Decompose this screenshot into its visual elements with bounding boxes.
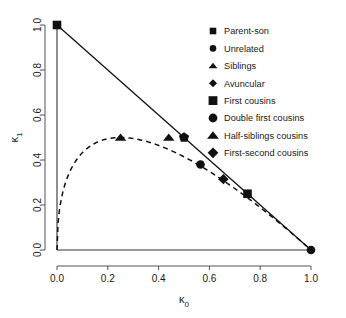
y-axis-ticks: 0.00.20.40.60.81.0 <box>32 18 46 257</box>
legend: Parent-sonUnrelatedSiblingsAvuncular Fir… <box>207 26 309 158</box>
data-point-triangle: Siblings <box>115 134 127 141</box>
y-tick-label: 0.6 <box>32 108 43 122</box>
kappa-scatter-plot: 0.00.20.40.60.81.0 0.00.20.40.60.81.0 Pa… <box>0 0 346 318</box>
x-tick-label: 0.2 <box>101 273 115 284</box>
data-point-triangle: Half-siblings cousins <box>163 134 175 141</box>
legend-label: Siblings <box>224 61 257 71</box>
y-tick-label: 0.4 <box>32 153 43 167</box>
legend-marker-diamond <box>208 147 219 158</box>
x-axis-title: κ0 <box>179 293 190 309</box>
legend-label: Avuncular <box>224 79 265 89</box>
x-tick-label: 0.0 <box>50 273 64 284</box>
y-axis-title: κ1 <box>8 132 24 143</box>
legend-marker-square <box>210 28 217 35</box>
legend-marker-circle <box>210 45 217 52</box>
y-tick-label: 1.0 <box>32 18 43 32</box>
data-point-square: Parent-son <box>53 21 62 30</box>
legend-label: Half-siblings cousins <box>224 131 308 141</box>
legend-label: First cousins <box>224 96 276 106</box>
x-tick-label: 1.0 <box>304 273 318 284</box>
legend-marker-diamond <box>209 79 217 87</box>
legend-marker-square <box>209 96 218 105</box>
y-tick-label: 0.2 <box>32 198 43 212</box>
y-tick-label: 0.8 <box>32 63 43 77</box>
legend-label: Double first cousins <box>224 113 305 123</box>
legend-label: Unrelated <box>224 44 264 54</box>
x-tick-label: 0.6 <box>202 273 216 284</box>
legend-marker-triangle <box>209 63 218 69</box>
legend-marker-triangle <box>207 131 219 138</box>
x-axis-ticks: 0.00.20.40.60.81.0 <box>50 266 318 284</box>
x-tick-label: 0.8 <box>253 273 267 284</box>
legend-marker-circle <box>209 114 218 123</box>
legend-label: Parent-son <box>224 26 269 36</box>
legend-label: First-second cousins <box>224 148 309 158</box>
data-point-circle: Unrelated <box>307 246 316 255</box>
x-tick-label: 0.4 <box>152 273 166 284</box>
y-tick-label: 0.0 <box>32 243 43 257</box>
chart-container: 0.00.20.40.60.81.0 0.00.20.40.60.81.0 Pa… <box>0 0 346 318</box>
data-point-circle: Double first cousins <box>196 160 205 169</box>
data-point-square: First cousins <box>243 189 252 198</box>
